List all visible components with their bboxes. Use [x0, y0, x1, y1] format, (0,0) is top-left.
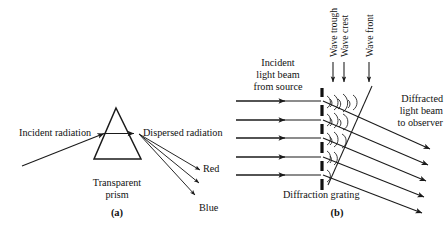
prism-label-line2: prism — [105, 189, 128, 200]
optics-dispersion-diffraction-figure: Incident radiation Dispersed radiation T… — [0, 0, 445, 230]
incident-beam-label-line3: from source — [254, 81, 303, 92]
callout-arrows-group — [333, 62, 369, 82]
incident-radiation-label: Incident radiation — [19, 127, 91, 138]
wave-front-label: Wave front — [364, 14, 375, 57]
dispersed-ray-red — [139, 134, 200, 170]
incident-rays-group — [236, 101, 321, 175]
dispersed-radiation-label: Dispersed radiation — [143, 127, 223, 138]
incident-beam-label-line2: light beam — [256, 69, 299, 80]
diffracted-beam-label-line1: Diffracted — [401, 93, 443, 104]
dispersed-ray-middle — [139, 134, 199, 183]
panel-a: Incident radiation Dispersed radiation T… — [19, 108, 223, 219]
red-label: Red — [203, 163, 219, 174]
panel-a-tag: (a) — [111, 207, 124, 219]
diffracted-beam-label-line3: to observer — [397, 117, 443, 128]
diffracted-beam-label-line2: light beam — [400, 105, 443, 116]
incident-beam-label-line1: Incident — [261, 57, 295, 68]
diffraction-grating-label: Diffraction grating — [283, 189, 359, 200]
wave-trough-label: Wave trough — [328, 8, 339, 57]
prism-label-line1: Transparent — [93, 177, 141, 188]
wave-front-line — [328, 86, 372, 185]
dispersed-ray-blue — [139, 134, 195, 195]
incident-radiation-ray — [22, 134, 104, 167]
blue-label: Blue — [199, 202, 219, 213]
panel-b-tag: (b) — [331, 207, 344, 219]
panel-b: Incident light beam from source — [236, 8, 444, 219]
diffracted-ray — [323, 138, 426, 181]
wave-crest-label: Wave crest — [339, 15, 350, 57]
